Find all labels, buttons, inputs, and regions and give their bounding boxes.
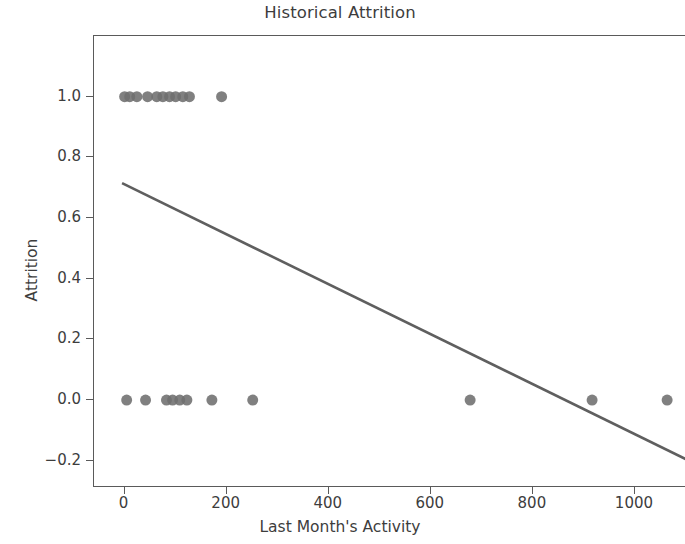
scatter-point xyxy=(662,395,673,406)
y-tick-label: 0.2 xyxy=(1,329,81,347)
scatter-point xyxy=(131,91,142,102)
y-tick-label: 1.0 xyxy=(1,87,81,105)
x-tick-label: 0 xyxy=(119,494,129,512)
y-tick-mark xyxy=(86,217,93,218)
regression-line-segment xyxy=(122,183,685,459)
chart-canvas xyxy=(94,36,685,487)
y-tick-mark xyxy=(86,278,93,279)
scatter-point xyxy=(465,395,476,406)
x-tick-mark xyxy=(226,487,227,494)
x-tick-mark xyxy=(124,487,125,494)
x-tick-label: 200 xyxy=(211,494,240,512)
x-tick-label: 600 xyxy=(415,494,444,512)
y-axis-label: Attrition xyxy=(23,190,41,350)
y-tick-label: 0.4 xyxy=(1,269,81,287)
scatter-point xyxy=(121,395,132,406)
scatter-point xyxy=(247,395,258,406)
y-tick-mark xyxy=(86,399,93,400)
scatter-point xyxy=(181,395,192,406)
y-tick-mark xyxy=(86,460,93,461)
scatter-point xyxy=(140,395,151,406)
y-tick-mark xyxy=(86,96,93,97)
y-tick-mark xyxy=(86,338,93,339)
y-tick-label: 0.6 xyxy=(1,208,81,226)
chart-title: Historical Attrition xyxy=(0,3,680,22)
y-tick-label: 0.8 xyxy=(1,147,81,165)
plot-area xyxy=(93,35,685,487)
x-tick-mark xyxy=(532,487,533,494)
x-tick-label: 800 xyxy=(518,494,547,512)
x-tick-mark xyxy=(634,487,635,494)
y-tick-label: −0.2 xyxy=(1,451,81,469)
x-axis-label: Last Month's Activity xyxy=(0,518,680,536)
scatter-points xyxy=(119,91,672,405)
scatter-point xyxy=(206,395,217,406)
y-tick-mark xyxy=(86,156,93,157)
scatter-point xyxy=(587,395,598,406)
scatter-point xyxy=(184,91,195,102)
regression-line xyxy=(122,183,685,459)
x-tick-label: 1000 xyxy=(615,494,653,512)
scatter-point xyxy=(216,91,227,102)
x-tick-mark xyxy=(328,487,329,494)
x-tick-label: 400 xyxy=(313,494,342,512)
x-tick-mark xyxy=(430,487,431,494)
y-tick-label: 0.0 xyxy=(1,390,81,408)
